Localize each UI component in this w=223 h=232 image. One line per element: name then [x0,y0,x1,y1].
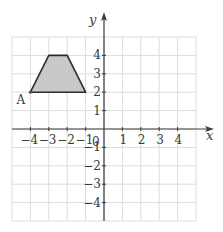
x-tick-label: −3 [39,133,57,147]
x-tick-label: 4 [175,133,183,147]
y-tick-label: −4 [83,196,101,210]
y-tick-label: −2 [83,159,101,173]
x-tick-label: 2 [138,133,146,147]
x-tick-label: 3 [156,133,164,147]
x-tick-label: −2 [57,133,75,147]
x-tick-label: 1 [119,133,127,147]
y-tick-label: 3 [93,67,101,81]
axes [12,12,214,221]
y-axis-label: y [88,12,97,27]
y-tick-label: 1 [93,104,101,118]
y-tick-label: 2 [93,85,101,99]
point-a-marker [29,91,32,94]
y-tick-label: −3 [83,177,101,191]
x-axis-label: x [206,128,214,143]
x-tick-label: −4 [20,133,38,147]
point-a-label: A [15,93,25,107]
coordinate-grid-figure: −4−3−2−112344321−1−2−3−4 x y 0 A [0,0,223,232]
y-tick-label: 4 [93,48,101,62]
origin-label: 0 [92,135,100,149]
